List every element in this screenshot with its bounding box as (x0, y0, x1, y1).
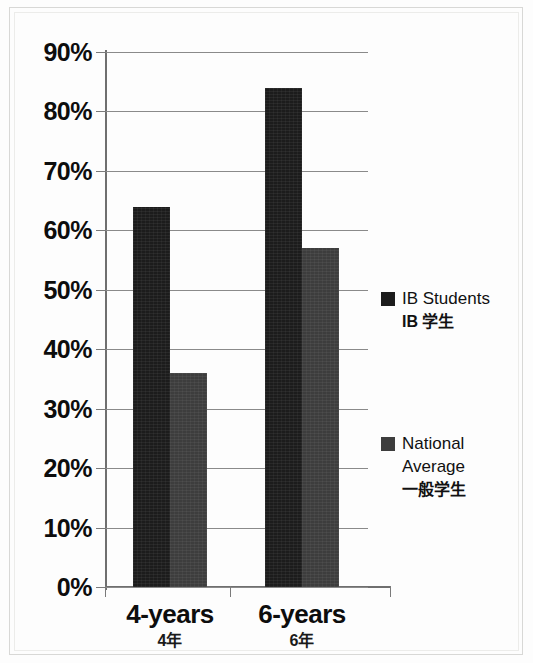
legend-swatch-icon-national-average (381, 437, 395, 451)
gridline (105, 587, 368, 588)
bar-ib-students-4-years (133, 207, 170, 587)
y-axis-tick (96, 111, 106, 112)
x-axis-category-label-secondary: 6年 (222, 632, 382, 650)
y-axis-tick-label: 30% (6, 394, 92, 423)
gridline (105, 111, 368, 112)
x-axis-tick (390, 586, 391, 597)
legend-swatch-icon-ib-students (381, 292, 395, 306)
y-axis-tick-label: 80% (6, 97, 92, 126)
plot-area (105, 52, 368, 587)
chart-legend: IB Students IB 学生 National Average 一般学生 (381, 288, 531, 501)
y-axis-tick (96, 230, 106, 231)
bar-national-average-4-years (170, 373, 207, 587)
bar-national-average-6-years (302, 248, 339, 587)
x-axis-category-6-years: 6-years6年 (222, 600, 382, 649)
bar-chart-figure: 90%80%70%60%50%40%30%20%10%0% 4-years4年6… (0, 0, 533, 663)
y-axis-tick (96, 349, 106, 350)
y-axis-tick-label: 20% (6, 454, 92, 483)
legend-label-national-average: National Average (402, 433, 522, 478)
y-axis-tick (96, 468, 106, 469)
legend-entry-ib-students[interactable]: IB Students IB 学生 (381, 288, 531, 333)
legend-label-ib-students: IB Students (402, 288, 490, 310)
x-axis-tick (230, 586, 231, 597)
y-axis-tick (96, 528, 106, 529)
gridline (105, 171, 368, 172)
y-axis-tick (96, 290, 106, 291)
gridline (105, 52, 368, 53)
y-axis-tick (96, 52, 106, 53)
y-axis-tick-label: 10% (6, 513, 92, 542)
y-axis-tick-label: 90% (6, 38, 92, 67)
legend-entry-national-average[interactable]: National Average 一般学生 (381, 433, 531, 501)
y-axis-tick-label: 0% (6, 573, 92, 602)
y-axis-tick-label: 40% (6, 335, 92, 364)
legend-label-secondary-national-average: 一般学生 (402, 480, 531, 501)
y-axis-tick (96, 409, 106, 410)
y-axis-tick-label: 50% (6, 275, 92, 304)
y-axis-tick-label: 60% (6, 216, 92, 245)
x-axis-category-label: 6-years (222, 600, 382, 629)
bar-ib-students-6-years (265, 88, 302, 587)
x-axis-tick (105, 586, 106, 597)
y-axis-tick (96, 171, 106, 172)
y-axis-tick-label: 70% (6, 156, 92, 185)
y-axis-labels: 90%80%70%60%50%40%30%20%10%0% (0, 0, 92, 663)
legend-label-secondary-ib-students: IB 学生 (402, 312, 531, 333)
